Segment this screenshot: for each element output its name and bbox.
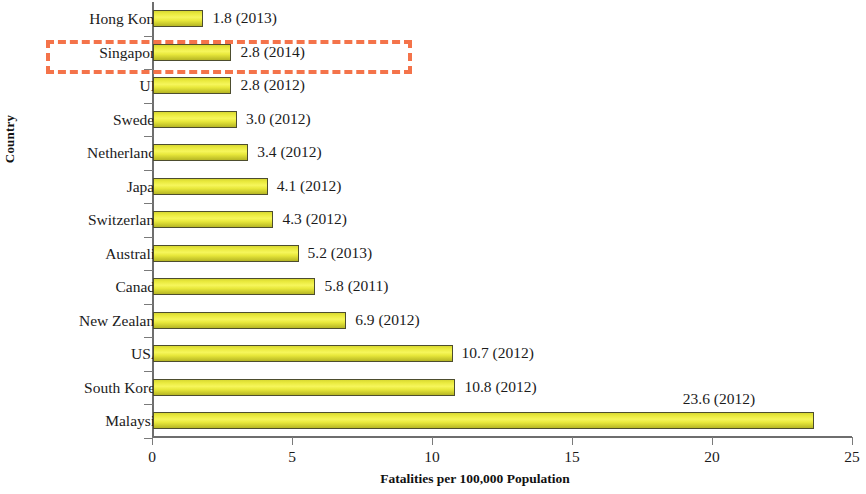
y-axis-tick — [144, 371, 153, 372]
y-axis-tick — [144, 203, 153, 204]
bar-chart: Country Hong Kong1.8 (2013)Singapore2.8 … — [0, 0, 866, 494]
y-axis-tick — [144, 36, 153, 37]
bar-value-label: 4.1 (2012) — [277, 177, 342, 195]
x-axis-tick — [572, 437, 573, 445]
bar — [153, 379, 455, 396]
category-label: USA — [0, 345, 162, 363]
bar-row: Australia5.2 (2013) — [0, 237, 866, 271]
y-axis-tick — [144, 103, 153, 104]
x-axis-tick — [292, 437, 293, 445]
y-axis-tick — [144, 304, 153, 305]
bar — [153, 77, 231, 94]
category-label: Switzerland — [0, 211, 162, 229]
bar-row: Sweden3.0 (2012) — [0, 103, 866, 137]
y-axis-tick — [144, 404, 153, 405]
bar — [153, 44, 231, 61]
x-axis-tick-label: 5 — [262, 448, 322, 466]
bar-row: UK2.8 (2012) — [0, 69, 866, 103]
x-axis-tick — [852, 437, 853, 445]
bar — [153, 412, 814, 429]
bar — [153, 312, 346, 329]
bar-value-label: 6.9 (2012) — [355, 311, 420, 329]
bar-row: Switzerland4.3 (2012) — [0, 203, 866, 237]
bar — [153, 111, 237, 128]
bar-row: Canada5.8 (2011) — [0, 270, 866, 304]
bar-row: USA10.7 (2012) — [0, 337, 866, 371]
bar-row: Malaysia23.6 (2012) — [0, 404, 866, 438]
category-label: UK — [0, 77, 162, 95]
x-axis-tick-label: 25 — [822, 448, 866, 466]
bar-row: Netherlands3.4 (2012) — [0, 136, 866, 170]
plot-area: Hong Kong1.8 (2013)Singapore2.8 (2014)UK… — [0, 0, 866, 440]
y-axis-tick — [144, 69, 153, 70]
bar-row: Japan4.1 (2012) — [0, 170, 866, 204]
x-axis-title: Fatalities per 100,000 Population — [205, 471, 745, 487]
x-axis-tick-label: 10 — [402, 448, 462, 466]
bar-value-label: 5.2 (2013) — [308, 244, 373, 262]
x-axis-tick-label: 15 — [542, 448, 602, 466]
bar-value-label: 2.8 (2014) — [240, 43, 305, 61]
category-label: Japan — [0, 178, 162, 196]
y-axis-tick — [144, 337, 153, 338]
bar-value-label: 10.8 (2012) — [464, 378, 536, 396]
y-axis-tick — [144, 237, 153, 238]
bar — [153, 178, 268, 195]
bar-row: New Zealand6.9 (2012) — [0, 304, 866, 338]
category-label: Malaysia — [0, 412, 162, 430]
bar-value-label: 23.6 (2012) — [683, 390, 755, 408]
bar — [153, 144, 248, 161]
category-label: Sweden — [0, 111, 162, 129]
y-axis-tick — [144, 170, 153, 171]
bar-value-label: 1.8 (2013) — [212, 9, 277, 27]
category-label: Netherlands — [0, 144, 162, 162]
x-axis-tick — [712, 437, 713, 445]
x-axis-tick — [432, 437, 433, 445]
category-label: Canada — [0, 278, 162, 296]
bar-value-label: 3.0 (2012) — [246, 110, 311, 128]
bar — [153, 211, 273, 228]
category-label: Australia — [0, 245, 162, 263]
bar — [153, 10, 203, 27]
bar-value-label: 10.7 (2012) — [462, 344, 534, 362]
bar-value-label: 3.4 (2012) — [257, 143, 322, 161]
bar — [153, 345, 453, 362]
bar — [153, 278, 315, 295]
bar-value-label: 2.8 (2012) — [240, 76, 305, 94]
category-label: Hong Kong — [0, 10, 162, 28]
bar-value-label: 5.8 (2011) — [324, 277, 388, 295]
y-axis-tick — [144, 136, 153, 137]
x-axis-tick-label: 0 — [122, 448, 182, 466]
bar-row: Singapore2.8 (2014) — [0, 36, 866, 70]
bar — [153, 245, 299, 262]
bar-row: Hong Kong1.8 (2013) — [0, 2, 866, 36]
category-label: Singapore — [0, 44, 162, 62]
category-label: New Zealand — [0, 312, 162, 330]
y-axis-tick — [144, 270, 153, 271]
bar-value-label: 4.3 (2012) — [282, 210, 347, 228]
y-axis-tick — [144, 438, 153, 439]
category-label: South Korea — [0, 379, 162, 397]
x-axis-tick-label: 20 — [682, 448, 742, 466]
